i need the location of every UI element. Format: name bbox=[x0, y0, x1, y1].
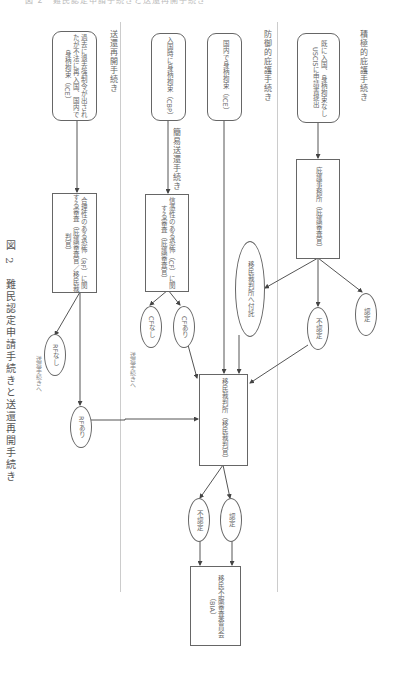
node-cf-yes: CFあり bbox=[173, 306, 195, 348]
node-reinstatement-start-label: 過去に退去強制令が出されたが不法に再入国、国内で身柄拘束（ICE） bbox=[63, 32, 87, 120]
figure-caption: 図 2 難民認定申請手続きと送還再開手続き bbox=[2, 240, 17, 483]
node-denied-ic-label: 不認定 bbox=[195, 510, 203, 531]
node-granted-ic: 認定 bbox=[220, 498, 242, 542]
node-immigration-court-label: 移民裁判所（移民裁判官） bbox=[220, 378, 228, 462]
node-defensive-ice-label: 国内で身柄拘束（ICE） bbox=[221, 40, 229, 114]
node-affirmative-start-label: 既に入国、身柄拘束なし USCISに申請書提出 bbox=[311, 34, 327, 122]
node-defensive-cbp: 入国時に身柄拘束（CBP） bbox=[151, 33, 186, 121]
node-denied-ic: 不認定 bbox=[188, 498, 210, 542]
caption-number: 図 2 bbox=[4, 240, 15, 266]
node-bia: 移民不服審査委員会（BIA） bbox=[190, 566, 241, 646]
node-affirmative-start: 既に入国、身柄拘束なし USCISに申請書提出 bbox=[297, 33, 340, 123]
node-immigration-court: 移民裁判所（移民裁判官） bbox=[199, 374, 248, 466]
node-rf-yes-label: RFあり bbox=[77, 416, 85, 438]
node-rf-no-label: RFなし bbox=[51, 344, 59, 366]
node-defensive-ice: 国内で身柄拘束（ICE） bbox=[207, 33, 242, 121]
node-granted-ao-label: 認定 bbox=[362, 308, 370, 322]
rf-no-note: 送還手続きへ bbox=[34, 356, 43, 392]
node-denied-ao-label: 不認定 bbox=[314, 318, 322, 339]
caption-title: 難民認定申請手続きと送還再開手続き bbox=[2, 279, 17, 483]
node-referred-ic: 移民裁判所へ付託 bbox=[235, 241, 265, 337]
expedited-removal-label: 簡易送還手続き bbox=[170, 128, 181, 191]
node-asylum-office: 庇護事務所（庇護審査官） bbox=[296, 159, 340, 259]
node-cf-review-label: 信憑性のある恐怖（CF）に関する審査（庇護審査官） bbox=[159, 195, 175, 291]
node-granted-ic-label: 認定 bbox=[227, 513, 235, 527]
node-rf-review: 合理性のある恐怖（RF）に関する審査（庇護審査官／移民裁判官） bbox=[52, 193, 97, 293]
node-cf-no: CFなし bbox=[140, 306, 162, 348]
node-rf-yes: RFあり bbox=[70, 406, 92, 448]
node-rf-no: RFなし bbox=[44, 334, 66, 376]
cf-no-note: 送還手続きへ bbox=[128, 352, 137, 388]
node-bia-label: 移民不服審査委員会（BIA） bbox=[208, 567, 224, 645]
node-rf-review-label: 合理性のある恐怖（RF）に関する審査（庇護審査官／移民裁判官） bbox=[63, 194, 87, 292]
node-defensive-cbp-label: 入国時に身柄拘束（CBP） bbox=[165, 36, 173, 119]
node-referred-ic-label: 移民裁判所へ付託 bbox=[246, 261, 254, 317]
node-granted-ao: 認定 bbox=[355, 293, 377, 336]
node-reinstatement-start: 過去に退去強制令が出されたが不法に再入国、国内で身柄拘束（ICE） bbox=[52, 31, 97, 121]
node-denied-ao: 不認定 bbox=[307, 307, 329, 350]
node-cf-no-label: CFなし bbox=[147, 316, 155, 338]
node-cf-review: 信憑性のある恐怖（CF）に関する審査（庇護審査官） bbox=[145, 194, 189, 292]
node-asylum-office-label: 庇護事務所（庇護審査官） bbox=[314, 167, 322, 251]
node-cf-yes-label: CFあり bbox=[180, 316, 188, 338]
